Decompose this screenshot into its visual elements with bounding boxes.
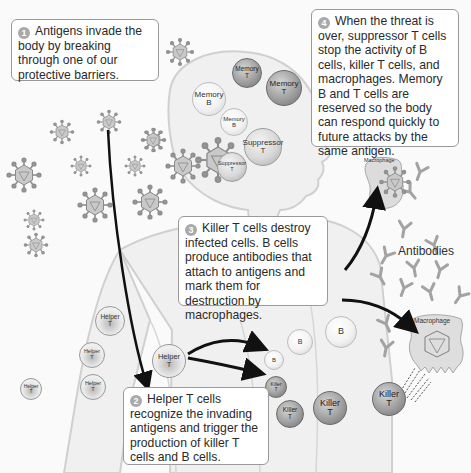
memory-b-cell: MemoryB [192,82,226,116]
killer-t-cell: KillerT [276,400,304,428]
helper-t-cell: HelperT [152,344,186,378]
step-2-callout: 2Helper T cells recognize the invading a… [123,387,269,465]
step-2-badge: 2 [130,395,142,407]
memory-t-cell: MemoryT [232,58,262,88]
step-1-badge: 1 [18,27,30,39]
helper-t-cell: HelperT [20,378,42,400]
helper-t-cell: HelperT [80,374,106,400]
helper-t-cell: HelperT [95,306,125,336]
step-4-text: When the threat is over, suppressor T ce… [318,14,446,158]
step-3-callout: 3Killer T cells destroy infected cells. … [178,216,328,306]
step-4-badge: 4 [318,17,330,29]
memory-b-cell: MemoryB [220,108,248,136]
helper-t-cell: HelperT [79,342,105,368]
b-cell: B [264,350,284,370]
killer-t-cell: KillerT [372,382,406,416]
suppressor-t-cell: SuppressorT [217,152,247,182]
step-3-badge: 3 [185,224,197,236]
memory-t-cell: MemoryT [266,70,302,106]
killer-t-cell: KillerT [313,391,347,425]
step-2-text: Helper T cells recognize the invading an… [130,392,258,464]
b-cell: B [325,316,357,348]
b-cell: B [287,329,313,355]
step-1-callout: 1Antigens invade the body by breaking th… [11,19,159,81]
suppressor-t-cell: SuppressorT [244,128,282,166]
step-4-callout: 4When the threat is over, suppressor T c… [311,9,459,147]
step-1-text: Antigens invade the body by breaking thr… [18,24,142,82]
